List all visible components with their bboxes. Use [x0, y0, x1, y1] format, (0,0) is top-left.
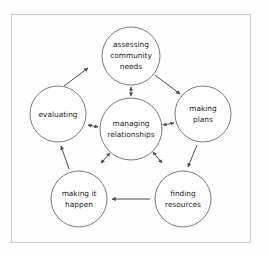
edge-center-finding-resources-bidirectional	[153, 152, 162, 163]
node-assessing-community-needs[interactable]: assessing community needs	[102, 27, 160, 85]
node-label-finding-resources-line1: finding	[170, 189, 196, 198]
edge-assessing-to-making-plans	[155, 75, 180, 94]
node-label-finding-resources-line2: resources	[165, 200, 201, 209]
node-evaluating[interactable]: evaluating	[30, 86, 86, 142]
node-label-making-plans-line2: plans	[193, 115, 213, 124]
node-label-assessing-line1: assessing	[113, 40, 149, 49]
node-label-evaluating: evaluating	[38, 110, 77, 119]
edge-center-evaluating-bidirectional	[88, 125, 98, 127]
edge-evaluating-to-assessing	[64, 68, 88, 86]
edge-making-it-happen-to-evaluating	[61, 146, 69, 169]
node-label-making-it-happen-line1: making it	[62, 189, 97, 198]
edge-center-making-it-happen-bidirectional	[101, 153, 110, 163]
node-making-plans[interactable]: making plans	[175, 86, 231, 142]
node-circle-making-it-happen[interactable]	[51, 171, 107, 227]
node-label-making-it-happen-line2: happen	[65, 200, 93, 209]
node-label-making-plans-line1: making	[189, 104, 217, 113]
cycle-diagram-svg: assessing community needs making plans f…	[0, 0, 269, 256]
edge-center-making-plans-bidirectional	[163, 123, 174, 125]
node-circle-finding-resources[interactable]	[155, 171, 211, 227]
edge-making-plans-to-finding-resources	[188, 145, 197, 167]
node-managing-relationships[interactable]: managing relationships	[100, 98, 162, 160]
node-circle-center[interactable]	[100, 98, 162, 160]
node-label-assessing-line3: needs	[120, 62, 142, 71]
node-making-it-happen[interactable]: making it happen	[51, 171, 107, 227]
node-circle-making-plans[interactable]	[175, 86, 231, 142]
diagram-canvas: assessing community needs making plans f…	[0, 0, 269, 256]
node-label-center-line2: relationships	[107, 130, 154, 139]
node-label-assessing-line2: community	[110, 51, 152, 60]
node-finding-resources[interactable]: finding resources	[155, 171, 211, 227]
node-label-center-line1: managing	[112, 119, 149, 128]
